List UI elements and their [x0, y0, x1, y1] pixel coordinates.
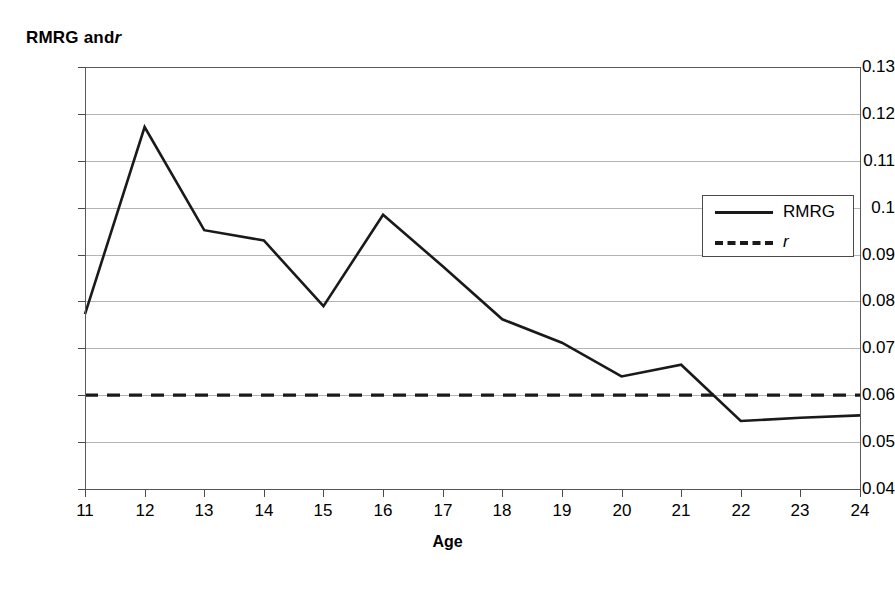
y-tick-mark: [78, 301, 85, 302]
x-tick-mark: [85, 489, 86, 497]
y-tick-label: 0.09: [824, 246, 895, 263]
y-tick-mark: [78, 161, 85, 162]
y-tick-mark: [78, 67, 85, 68]
series-line-rmrg: [85, 127, 860, 421]
legend-label-r: r: [783, 232, 789, 252]
y-tick-label: 0.05: [824, 433, 895, 450]
x-axis-line: [85, 489, 861, 490]
x-tick-label: 23: [780, 502, 820, 519]
plot-border-top: [85, 67, 861, 68]
x-axis-title: Age: [0, 533, 895, 551]
y-axis-title: RMRG andr: [26, 28, 121, 48]
x-tick-mark: [204, 489, 205, 497]
legend-swatch-solid-icon: [715, 211, 773, 214]
y-tick-label: 0.04: [824, 480, 895, 497]
x-tick-label: 18: [482, 502, 522, 519]
x-tick-mark: [502, 489, 503, 497]
x-tick-label: 17: [423, 502, 463, 519]
y-tick-label: 0.07: [824, 339, 895, 356]
x-tick-label: 21: [661, 502, 701, 519]
y-tick-label: 0.13: [824, 58, 895, 75]
y-tick-mark: [78, 255, 85, 256]
y-tick-label: 0.1: [824, 199, 895, 216]
x-tick-label: 14: [244, 502, 284, 519]
x-tick-mark: [443, 489, 444, 497]
plot-area: RMRG r: [85, 67, 861, 490]
y-axis-title-text: RMRG and: [26, 28, 114, 47]
y-tick-label: 0.08: [824, 292, 895, 309]
x-tick-label: 24: [840, 502, 880, 519]
series-layer: [85, 67, 861, 490]
plot-border-left: [85, 67, 86, 490]
y-tick-label: 0.11: [824, 152, 895, 169]
chart-figure: RMRG andr RMRG r 0.130.120.110.10.090.08…: [0, 0, 895, 589]
y-axis-title-symbol: r: [114, 28, 121, 47]
x-tick-mark: [145, 489, 146, 497]
x-tick-label: 22: [721, 502, 761, 519]
legend-swatch-dashed-icon: [715, 241, 773, 245]
x-tick-label: 19: [542, 502, 582, 519]
y-tick-label: 0.06: [824, 386, 895, 403]
x-tick-mark: [323, 489, 324, 497]
x-tick-label: 16: [363, 502, 403, 519]
x-tick-label: 15: [303, 502, 343, 519]
y-tick-mark: [78, 489, 85, 490]
x-tick-mark: [741, 489, 742, 497]
x-tick-mark: [264, 489, 265, 497]
x-tick-mark: [681, 489, 682, 497]
x-tick-label: 20: [602, 502, 642, 519]
x-tick-label: 12: [125, 502, 165, 519]
x-tick-label: 11: [65, 502, 105, 519]
x-tick-mark: [383, 489, 384, 497]
x-tick-label: 13: [184, 502, 224, 519]
y-tick-mark: [78, 442, 85, 443]
x-tick-mark: [800, 489, 801, 497]
y-tick-mark: [78, 208, 85, 209]
y-tick-label: 0.12: [824, 105, 895, 122]
y-tick-mark: [78, 395, 85, 396]
plot-border-right: [860, 67, 861, 490]
x-tick-mark: [562, 489, 563, 497]
x-tick-mark: [622, 489, 623, 497]
y-tick-mark: [78, 348, 85, 349]
y-tick-mark: [78, 114, 85, 115]
